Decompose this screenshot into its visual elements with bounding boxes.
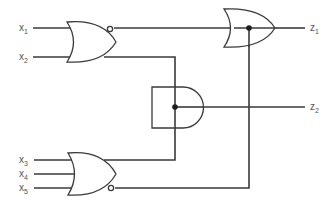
input-label-x1: x1 — [19, 22, 28, 35]
input-label-x2: x2 — [19, 51, 28, 64]
input-label-x4: x4 — [19, 168, 28, 181]
output-label-z1: z1 — [310, 22, 319, 35]
nor-gate-2 — [68, 153, 116, 195]
input-label-x3: x3 — [19, 154, 28, 167]
logic-circuit-diagram: x1 x2 x3 x4 x5 z1 z2 — [0, 0, 334, 205]
wire-x2-to-and — [104, 57, 175, 87]
input-label-x5: x5 — [19, 182, 28, 195]
output-label-z2: z2 — [310, 101, 319, 114]
nor-gate-1 — [67, 22, 116, 63]
junction-dot-or — [246, 25, 252, 31]
wire-x3-to-and — [104, 128, 175, 160]
junction-dot-and — [172, 104, 178, 110]
